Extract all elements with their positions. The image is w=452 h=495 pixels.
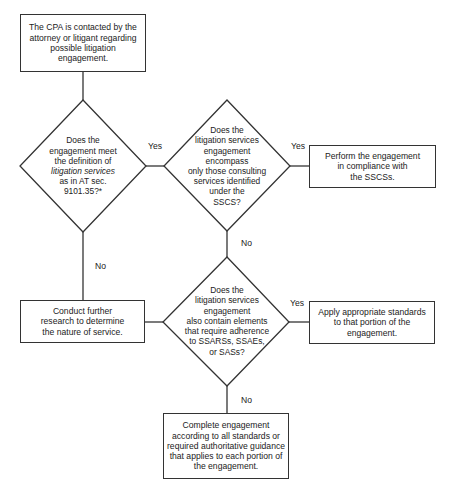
edge-label-d3-no: No	[241, 395, 252, 405]
decision-3-line: Does the	[185, 285, 269, 295]
decision-2-line: encompass	[188, 156, 266, 166]
decision-1-line: as in AT sec.	[49, 176, 117, 186]
decision-3-line: to SSARSs, SSAEs,	[185, 336, 269, 346]
start-box-line: The CPA is contacted by the	[29, 22, 137, 32]
decision-1-line: 9101.35?*	[49, 186, 117, 196]
edge-label-d1-no: No	[95, 261, 106, 271]
decision-1-line: Does the	[49, 135, 117, 145]
decision-1-text: Does the engagement meet the definition …	[33, 130, 133, 202]
perform-sscs-line: Perform the engagement	[325, 151, 420, 161]
decision-2-text: Does the litigation services engagement …	[172, 118, 282, 214]
research-box: Conduct further research to determine th…	[20, 300, 145, 343]
research-line: research to determine	[41, 316, 125, 326]
decision-1-term-litigation-services: litigation services	[49, 166, 117, 176]
perform-sscs-line: the SSCSs.	[325, 172, 420, 182]
decision-3-line: litigation services	[185, 295, 269, 305]
decision-3-text: Does the litigation services engagement …	[168, 282, 286, 360]
decision-1-line: the definition of	[49, 156, 117, 166]
decision-2-line: litigation services	[188, 135, 266, 145]
complete-engagement-box: Complete engagement according to all sta…	[163, 413, 289, 479]
edge-label-d2-yes: Yes	[291, 141, 305, 151]
complete-line: that applies to each portion of	[167, 451, 285, 461]
apply-standards-line: Apply appropriate standards	[318, 307, 426, 317]
perform-sscs-line: in compliance with	[325, 161, 420, 171]
perform-sscs-box: Perform the engagement in compliance wit…	[309, 145, 436, 188]
apply-standards-line: to that portion of the	[318, 317, 426, 327]
edge-label-d3-yes: Yes	[290, 298, 304, 308]
decision-3-line: or SASs?	[185, 347, 269, 357]
complete-line: required authoritative guidance	[167, 441, 285, 451]
apply-standards-box: Apply appropriate standards to that port…	[309, 301, 435, 344]
edge-label-d1-yes: Yes	[148, 141, 162, 151]
complete-line: the engagement.	[167, 461, 285, 471]
decision-2-line: under the	[188, 186, 266, 196]
decision-2-line: SSCS?	[188, 197, 266, 207]
decision-3-line: also contain elements	[185, 316, 269, 326]
decision-3-line: that require adherence	[185, 326, 269, 336]
decision-2-line: only those consulting	[188, 166, 266, 176]
start-box: The CPA is contacted by the attorney or …	[20, 14, 146, 72]
apply-standards-line: engagement.	[318, 328, 426, 338]
research-line: the nature of service.	[41, 327, 125, 337]
decision-3-line: engagement	[185, 306, 269, 316]
research-line: Conduct further	[41, 306, 125, 316]
complete-line: Complete engagement	[167, 420, 285, 430]
start-box-line: attorney or litigant regarding	[29, 33, 137, 43]
complete-line: according to all standards or	[167, 431, 285, 441]
edge-label-d2-no: No	[241, 238, 252, 248]
decision-1-line: engagement meet	[49, 146, 117, 156]
start-box-line: possible litigation	[29, 43, 137, 53]
decision-2-line: services identified	[188, 176, 266, 186]
decision-2-line: engagement	[188, 146, 266, 156]
decision-2-line: Does the	[188, 125, 266, 135]
start-box-line: engagement.	[29, 53, 137, 63]
